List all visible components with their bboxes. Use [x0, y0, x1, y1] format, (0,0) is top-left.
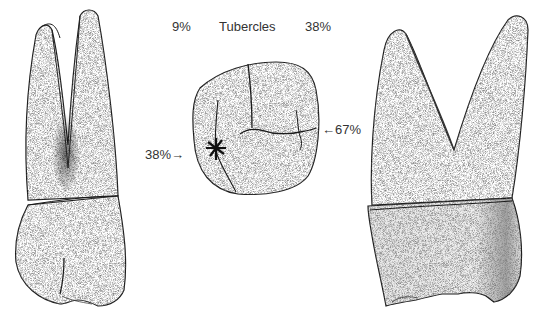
tooth-drawings	[0, 0, 540, 318]
tubercles-title: Tubercles	[219, 20, 276, 33]
right-tooth	[368, 16, 528, 306]
left-percentage-arrow: 38%→	[145, 148, 184, 161]
right-percentage-arrow: ←67%	[322, 123, 361, 136]
center-tooth	[193, 62, 319, 194]
top-right-percentage: 38%	[305, 20, 331, 33]
top-left-percentage: 9%	[172, 20, 191, 33]
tooth-figure: 9% Tubercles 38% 38%→ ←67%	[0, 0, 540, 318]
left-tooth	[16, 10, 126, 306]
